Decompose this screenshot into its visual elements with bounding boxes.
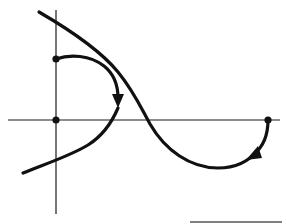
start-point-vertical-axis — [52, 55, 59, 62]
s-curve-lower-branch — [23, 108, 118, 173]
arrowhead-down-icon — [112, 94, 124, 108]
diagram-canvas — [0, 0, 286, 224]
origin-point — [52, 116, 59, 123]
start-point-horizontal-axis — [264, 116, 271, 123]
s-curve — [39, 12, 258, 168]
